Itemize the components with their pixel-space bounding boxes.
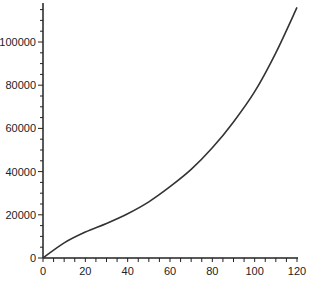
y-tick-label: 20000 [5,209,36,221]
data-line [43,7,297,258]
y-tick-label: 60000 [5,122,36,134]
x-tick-label: 40 [122,265,134,277]
x-tick-label: 0 [40,265,46,277]
line-chart: 0 20 40 60 80 100 120 0 20000 40000 6000… [0,0,309,288]
x-tick-label: 100 [245,265,263,277]
x-axis-tick-labels: 0 20 40 60 80 100 120 [40,265,306,277]
y-tick-label: 80000 [5,79,36,91]
axis-ticks [38,10,297,262]
y-tick-label: 100000 [0,36,36,48]
x-tick-label: 60 [164,265,176,277]
x-tick-label: 20 [79,265,91,277]
x-tick-label: 80 [206,265,218,277]
axes [43,3,298,258]
y-axis-tick-labels: 0 20000 40000 60000 80000 100000 [0,36,36,264]
y-tick-label: 0 [30,252,36,264]
y-tick-label: 40000 [5,166,36,178]
x-tick-label: 120 [288,265,306,277]
